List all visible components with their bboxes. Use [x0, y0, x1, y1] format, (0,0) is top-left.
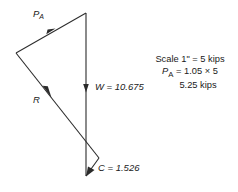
vector-pa-line [16, 13, 86, 53]
label-c: C = 1.526 [98, 163, 139, 174]
force-polygon-figure: PA R W = 10.675 C = 1.526 Scale 1" = 5 k… [0, 0, 238, 192]
scale-annotation: Scale 1" = 5 kips PA = 1.05 × 5 5.25 kip… [143, 54, 237, 92]
vector-w-arrowhead-icon [83, 84, 89, 93]
vector-pa [16, 13, 86, 53]
label-w-text: W = 10.675 [95, 81, 144, 92]
scale-line-1: Scale 1" = 5 kips [143, 54, 237, 66]
label-pa: PA [33, 9, 44, 21]
scale-line-2: PA = 1.05 × 5 [143, 66, 237, 80]
scale-line-2-subscript: A [168, 69, 173, 78]
label-pa-subscript: A [39, 13, 44, 20]
vector-c-arrowhead-icon [86, 167, 95, 177]
label-w: W = 10.675 [95, 82, 144, 93]
scale-line-3: 5.25 kips [143, 80, 237, 92]
vector-w [83, 13, 89, 176]
label-c-text: C = 1.526 [98, 162, 139, 173]
scale-line-2-rest: = 1.05 × 5 [176, 66, 218, 76]
label-r-symbol: R [33, 94, 40, 105]
vector-r [16, 53, 99, 158]
vector-r-line [16, 53, 99, 158]
label-r: R [33, 95, 40, 106]
